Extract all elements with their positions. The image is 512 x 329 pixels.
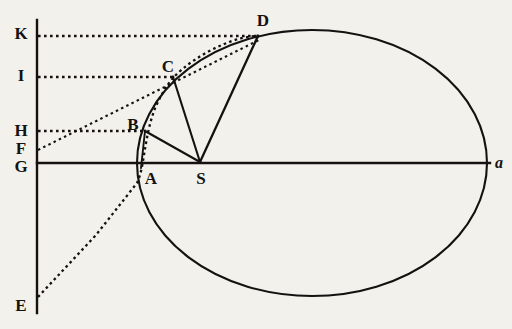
label-K: K: [14, 25, 27, 42]
label-a: a: [495, 155, 503, 171]
diagram-canvas: [0, 0, 512, 329]
vertex-dot-B: [144, 130, 147, 133]
label-G: G: [14, 158, 27, 175]
label-S: S: [196, 170, 205, 187]
time-curve-EABCD: [38, 36, 258, 297]
vertex-dot-S: [198, 160, 201, 163]
label-C: C: [162, 58, 174, 75]
label-F: F: [16, 140, 26, 157]
label-A: A: [145, 170, 157, 187]
vertex-dot-D: [257, 35, 260, 38]
vertex-dot-C: [172, 76, 175, 79]
figure-root: K I H F G E A B C D S a: [0, 0, 512, 329]
label-B: B: [127, 116, 138, 133]
label-H: H: [14, 122, 27, 139]
label-I: I: [18, 67, 25, 84]
label-E: E: [15, 297, 26, 314]
label-D: D: [257, 12, 269, 29]
